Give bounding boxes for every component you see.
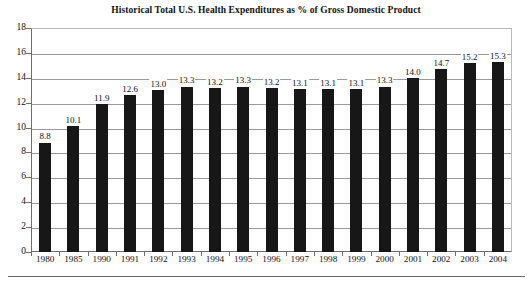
y-tick-label: 16	[2, 47, 26, 57]
bar[interactable]	[96, 104, 108, 252]
x-axis: 1980198519901991199219931994199519961997…	[31, 254, 512, 270]
bar-value-label: 15.3	[489, 51, 507, 61]
x-tick-label: 1980	[36, 254, 54, 264]
bar-value-label: 13.2	[206, 77, 224, 87]
chart-figure: Historical Total U.S. Health Expenditure…	[0, 0, 532, 284]
y-tick-label: 0	[2, 246, 26, 256]
y-tick-label: 6	[2, 171, 26, 181]
bar[interactable]	[379, 87, 391, 253]
y-tick-label: 2	[2, 221, 26, 231]
x-tick-mark	[201, 252, 202, 256]
y-tick-label: 12	[2, 97, 26, 107]
y-tick-label: 8	[2, 146, 26, 156]
y-tick-label: 10	[2, 122, 26, 132]
bar[interactable]	[124, 95, 136, 252]
bar-group[interactable]: 15.3	[492, 28, 504, 252]
x-tick-label: 1992	[149, 254, 167, 264]
x-tick-mark	[88, 252, 89, 256]
bar-value-label: 13.1	[319, 78, 337, 88]
bar-group[interactable]: 13.3	[379, 28, 391, 252]
x-tick-label: 2004	[489, 254, 507, 264]
bar-value-label: 13.3	[234, 75, 252, 85]
bars-layer: 8.810.111.912.613.013.313.213.313.213.11…	[31, 28, 512, 252]
bar-value-label: 13.2	[263, 77, 281, 87]
bar[interactable]	[67, 126, 79, 252]
bar[interactable]	[435, 69, 447, 252]
bar-group[interactable]: 13.3	[237, 28, 249, 252]
bar[interactable]	[407, 78, 419, 252]
bar-value-label: 14.0	[404, 67, 422, 77]
bar-group[interactable]: 8.8	[39, 28, 51, 252]
x-tick-label: 1994	[206, 254, 224, 264]
y-tick-label: 14	[2, 72, 26, 82]
bar-group[interactable]: 14.7	[435, 28, 447, 252]
x-tick-mark	[31, 252, 32, 256]
x-tick-mark	[257, 252, 258, 256]
bar[interactable]	[181, 87, 193, 253]
x-tick-label: 1998	[319, 254, 337, 264]
bar[interactable]	[266, 88, 278, 252]
x-tick-mark	[342, 252, 343, 256]
bar[interactable]	[237, 87, 249, 253]
bar[interactable]	[492, 62, 504, 252]
bar-value-label: 11.9	[93, 93, 110, 103]
x-tick-label: 1991	[121, 254, 139, 264]
bar-group[interactable]: 15.2	[464, 28, 476, 252]
bar-group[interactable]: 13.1	[294, 28, 306, 252]
bar-group[interactable]: 10.1	[67, 28, 79, 252]
bar-value-label: 13.0	[149, 79, 167, 89]
bar[interactable]	[39, 143, 51, 253]
bar[interactable]	[209, 88, 221, 252]
x-tick-mark	[229, 252, 230, 256]
x-tick-label: 2003	[460, 254, 478, 264]
y-tick-label: 4	[2, 196, 26, 206]
x-tick-mark	[484, 252, 485, 256]
bar-group[interactable]: 14.0	[407, 28, 419, 252]
bar-group[interactable]: 13.0	[152, 28, 164, 252]
x-tick-mark	[172, 252, 173, 256]
bar-value-label: 14.7	[432, 58, 450, 68]
bar[interactable]	[350, 89, 362, 252]
x-tick-mark	[427, 252, 428, 256]
x-tick-mark	[59, 252, 60, 256]
bar-value-label: 13.1	[348, 78, 366, 88]
x-tick-label: 1993	[177, 254, 195, 264]
bar[interactable]	[294, 89, 306, 252]
x-tick-mark	[286, 252, 287, 256]
x-tick-mark	[314, 252, 315, 256]
bar-value-label: 12.6	[121, 84, 139, 94]
x-tick-mark	[144, 252, 145, 256]
x-tick-mark	[399, 252, 400, 256]
bar-value-label: 10.1	[65, 115, 83, 125]
x-tick-label: 1995	[234, 254, 252, 264]
bar-group[interactable]: 13.2	[266, 28, 278, 252]
bar-group[interactable]: 11.9	[96, 28, 108, 252]
x-tick-label: 1999	[347, 254, 365, 264]
bar-value-label: 13.1	[291, 78, 309, 88]
x-tick-label: 1990	[93, 254, 111, 264]
bar-value-label: 8.8	[39, 131, 52, 141]
x-tick-label: 2001	[404, 254, 422, 264]
x-tick-label: 2002	[432, 254, 450, 264]
bar-group[interactable]: 13.1	[350, 28, 362, 252]
x-tick-label: 1996	[262, 254, 280, 264]
bar-group[interactable]: 13.2	[209, 28, 221, 252]
bar[interactable]	[322, 89, 334, 252]
x-tick-label: 2000	[375, 254, 393, 264]
bar-group[interactable]: 12.6	[124, 28, 136, 252]
bar[interactable]	[152, 90, 164, 252]
bottom-divider	[8, 276, 525, 277]
bar[interactable]	[464, 63, 476, 252]
bar-value-label: 13.3	[376, 75, 394, 85]
x-tick-label: 1997	[291, 254, 309, 264]
bar-group[interactable]: 13.1	[322, 28, 334, 252]
x-tick-mark	[116, 252, 117, 256]
bar-value-label: 15.2	[461, 52, 479, 62]
y-tick-label: 18	[2, 22, 26, 32]
x-tick-label: 1985	[64, 254, 82, 264]
x-tick-mark	[455, 252, 456, 256]
bar-value-label: 13.3	[178, 75, 196, 85]
x-tick-mark	[371, 252, 372, 256]
bar-group[interactable]: 13.3	[181, 28, 193, 252]
